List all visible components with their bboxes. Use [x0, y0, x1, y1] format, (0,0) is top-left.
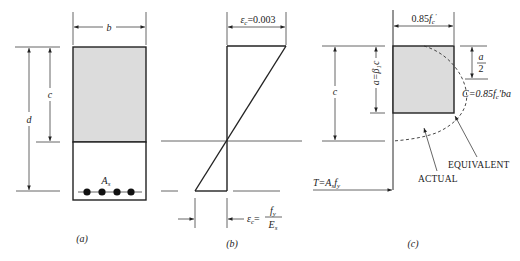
label-actual: ACTUAL: [418, 174, 458, 184]
label-equivalent: EQUIVALENT: [448, 160, 509, 170]
rebar-icon: [83, 188, 90, 195]
label-a-beta1-c: a=β1c: [370, 60, 383, 85]
label-fy: fy: [270, 205, 277, 218]
caption-a: (a): [76, 233, 88, 245]
dimension-top-strain: εc=0.003: [227, 12, 286, 45]
label-a-half-den: 2: [479, 63, 484, 74]
panel-a-cross-section: b d c As (a): [15, 12, 146, 245]
dimension-a-half: a 2: [460, 46, 488, 79]
caption-c: (c): [407, 238, 419, 250]
leader-equivalent: [455, 116, 477, 157]
label-compression-force: C=0.85fc'ba: [462, 88, 511, 101]
caption-b: (b): [226, 238, 238, 250]
rebar-icon: [127, 188, 134, 195]
dimension-d-and-c: d c: [15, 47, 60, 191]
tension-force: T=Asfy: [313, 177, 392, 190]
strain-profile-line: [195, 46, 286, 191]
dimension-b: b: [73, 12, 146, 45]
panel-c-stress-diagram: 0.85fc' c a=β1c a: [313, 10, 511, 250]
label-c-stress: c: [333, 86, 338, 97]
equivalent-stress-block: [393, 46, 454, 113]
label-d: d: [27, 114, 33, 125]
panel-b-strain-diagram: εc=0.003 εc= fy Es (b): [161, 12, 302, 250]
concrete-beam-flexure-diagram: b d c As (a): [0, 0, 520, 261]
label-tension-force: T=Asfy: [313, 177, 341, 190]
label-a-half-num: a: [479, 51, 484, 62]
leader-actual: [424, 128, 437, 171]
label-b: b: [107, 22, 112, 33]
dimension-c-and-a: c a=β1c: [322, 46, 385, 141]
label-c: c: [48, 89, 53, 100]
rebar-icon: [98, 188, 105, 195]
label-Es: Es: [268, 219, 278, 232]
dimension-stress-width: 0.85fc': [394, 12, 454, 45]
compression-zone: [73, 47, 146, 142]
dimension-steel-strain: εc= fy Es: [178, 198, 282, 232]
label-steel-strain: εc=: [247, 213, 260, 226]
rebar-icon: [113, 188, 120, 195]
